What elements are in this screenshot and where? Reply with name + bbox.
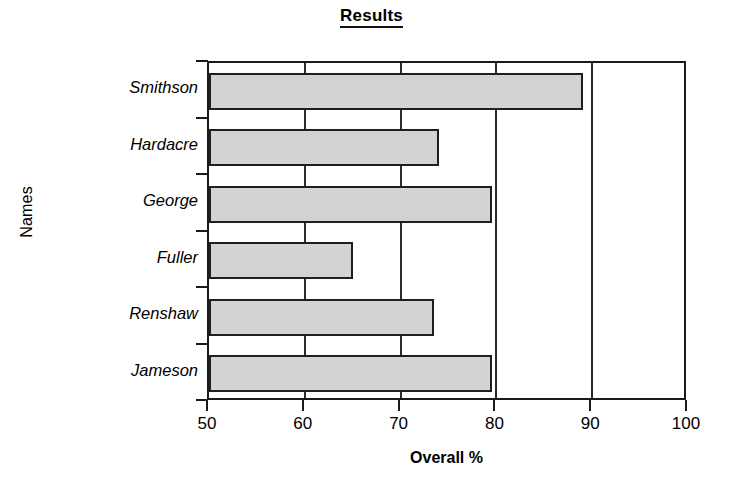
bar-renshaw[interactable] <box>209 299 434 336</box>
x-axis-tick-100 <box>685 400 687 411</box>
x-axis-label-100: 100 <box>656 414 716 434</box>
x-axis-label-50: 50 <box>177 414 237 434</box>
x-axis-title: Overall % <box>207 449 686 467</box>
bar-hardacre[interactable] <box>209 129 439 166</box>
bar-fuller[interactable] <box>209 242 353 279</box>
x-axis-label-90: 90 <box>560 414 620 434</box>
y-axis-label-smithson: Smithson <box>10 78 198 97</box>
y-axis-label-hardacre: Hardacre <box>10 135 198 154</box>
y-axis-label-fuller: Fuller <box>10 248 198 267</box>
x-axis-label-70: 70 <box>369 414 429 434</box>
bars-layer <box>209 63 684 398</box>
x-axis-tick-60 <box>302 400 304 411</box>
y-axis-label-george: George <box>10 191 198 210</box>
y-axis-tick <box>196 343 208 345</box>
x-axis-label-60: 60 <box>273 414 333 434</box>
plot-area <box>207 61 686 400</box>
x-axis-tick-70 <box>398 400 400 411</box>
y-axis-tick <box>196 230 208 232</box>
x-axis-tick-80 <box>493 400 495 411</box>
bar-george[interactable] <box>209 186 492 223</box>
y-axis-tick <box>196 286 208 288</box>
y-axis-label-renshaw: Renshaw <box>10 304 198 323</box>
chart-title: Results <box>0 6 743 26</box>
chart-title-text: Results <box>340 6 403 28</box>
x-axis-label-80: 80 <box>464 414 524 434</box>
y-axis-tick <box>196 117 208 119</box>
y-axis-tick <box>196 173 208 175</box>
y-axis-label-jameson: Jameson <box>10 361 198 380</box>
bar-jameson[interactable] <box>209 355 492 392</box>
x-axis-tick-50 <box>206 400 208 411</box>
bar-smithson[interactable] <box>209 73 583 110</box>
y-axis-tick <box>196 60 208 62</box>
x-axis-tick-90 <box>589 400 591 411</box>
